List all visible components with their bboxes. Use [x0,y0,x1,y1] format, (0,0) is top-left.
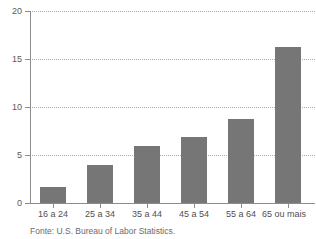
x-tick-label-45-a-54: 45 a 54 [179,209,209,220]
x-tick-mark-65-ou-mais [288,203,289,208]
y-tick-label-5: 5 [17,151,22,160]
y-tick-label-10: 10 [12,103,22,112]
x-tick-label-25-a-34: 25 a 34 [85,209,115,220]
bar-35-a-44[interactable] [134,146,160,203]
y-tick-mark-0 [25,203,30,204]
source-note: Fonte: U.S. Bureau of Labor Statistics. [30,226,175,236]
x-tick-label-35-a-44: 35 a 44 [132,209,162,220]
y-tick-label-0: 0 [17,199,22,208]
x-axis-line [30,203,315,204]
y-tick-label-15: 15 [12,55,22,64]
x-tick-mark-25-a-34 [100,203,101,208]
bar-25-a-34[interactable] [87,165,113,203]
x-tick-label-65-ou-mais: 65 ou mais [262,209,306,220]
bar-16-a-24[interactable] [40,187,66,203]
x-tick-mark-35-a-44 [147,203,148,208]
bar-chart: 20 15 10 5 0 16 a 24 25 a 34 35 a 44 45 … [0,0,316,239]
bar-65-ou-mais[interactable] [275,47,301,204]
bar-45-a-54[interactable] [181,137,207,203]
x-tick-label-55-a-64: 55 a 64 [226,209,256,220]
x-tick-mark-16-a-24 [53,203,54,208]
bars-layer [30,11,315,203]
y-tick-label-20: 20 [12,7,22,16]
chart-title [30,0,315,4]
bar-55-a-64[interactable] [228,119,254,204]
x-tick-label-16-a-24: 16 a 24 [38,209,68,220]
x-tick-mark-55-a-64 [241,203,242,208]
x-tick-mark-45-a-54 [194,203,195,208]
